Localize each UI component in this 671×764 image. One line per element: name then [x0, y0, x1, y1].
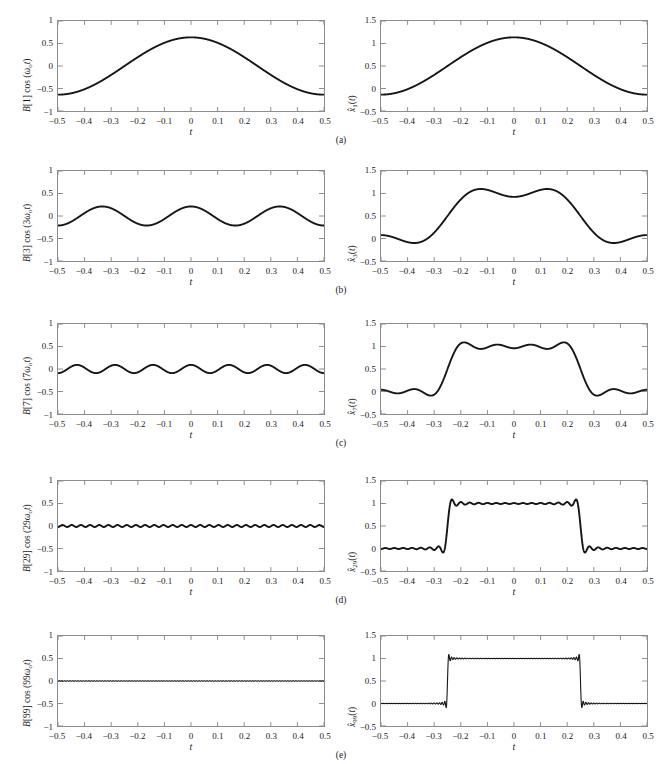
x-tick-label: 0.4: [283, 267, 313, 276]
x-tick-label: −0.1: [149, 577, 179, 586]
y-tick-label: 1: [27, 166, 53, 175]
plot-area-left: [57, 480, 325, 572]
x-axis-label-left: t: [171, 276, 211, 287]
x-tick-label: 0.2: [230, 732, 260, 741]
x-tick-label: −0.1: [472, 732, 502, 741]
plot-area-right: [380, 20, 648, 112]
y-tick-label: 1: [27, 631, 53, 640]
x-tick-label: 0.1: [203, 732, 233, 741]
x-tick-label: 0: [176, 267, 206, 276]
y-axis-label-left: B[99] cos (99ωot): [22, 659, 34, 727]
x-tick-label: 0.1: [203, 577, 233, 586]
x-axis-label-left: t: [171, 741, 211, 752]
x-tick-label: 0.5: [633, 117, 663, 126]
x-axis-label-right: t: [494, 586, 534, 597]
x-tick-label: 0.4: [283, 732, 313, 741]
y-tick-label: 0.5: [350, 677, 376, 686]
x-tick-label: 0.2: [230, 577, 260, 586]
harmonic-curve: [58, 525, 324, 527]
y-tick-label: 0: [350, 388, 376, 397]
x-tick-label: −0.2: [445, 732, 475, 741]
x-tick-label: −0.5: [365, 577, 395, 586]
x-tick-label: 0: [499, 577, 529, 586]
x-tick-label: 0.3: [579, 420, 609, 429]
x-axis-label-right: t: [494, 741, 534, 752]
y-axis-label-right: x̂7(t): [347, 398, 359, 415]
x-tick-label: −0.1: [149, 420, 179, 429]
x-tick-label: 0.4: [606, 577, 636, 586]
y-tick-label: 0: [350, 235, 376, 244]
plot-area-right: [380, 635, 648, 727]
x-tick-label: −0.3: [419, 732, 449, 741]
x-tick-label: 0.1: [203, 420, 233, 429]
x-tick-label: 0.2: [553, 732, 583, 741]
y-axis-label-left: B[7] cos (7ωot): [22, 357, 34, 415]
panel-row: −0.5−0.4−0.3−0.2−0.100.10.20.30.40.510.5…: [0, 617, 671, 764]
x-axis-label-right: t: [494, 276, 534, 287]
y-axis-label-right: x̂99(t): [347, 707, 359, 727]
x-tick-label: −0.1: [472, 420, 502, 429]
x-tick-label: 0.2: [230, 420, 260, 429]
x-tick-label: 0.2: [230, 267, 260, 276]
fourier-series-figure: −0.5−0.4−0.3−0.2−0.100.10.20.30.40.510.5…: [0, 0, 671, 764]
y-axis-label-right: x̂3(t): [347, 245, 359, 262]
y-axis-label-left: B[29] cos (29ωot): [22, 504, 34, 572]
x-tick-label: −0.4: [392, 267, 422, 276]
partial-sum-curve: [381, 37, 647, 94]
x-tick-label: −0.4: [392, 732, 422, 741]
x-tick-label: 0.3: [256, 732, 286, 741]
harmonic-curve: [58, 206, 324, 225]
x-tick-label: 0.1: [526, 577, 556, 586]
x-tick-label: −0.3: [419, 420, 449, 429]
y-axis-label-right: x̂29(t): [347, 552, 359, 572]
y-tick-label: 0.5: [350, 212, 376, 221]
x-tick-label: 0: [176, 732, 206, 741]
x-axis-label-right: t: [494, 126, 534, 137]
y-tick-label: 1: [350, 342, 376, 351]
axes-svg: [381, 636, 647, 726]
x-tick-label: −0.1: [472, 267, 502, 276]
y-axis-label-right: x̂1(t): [347, 95, 359, 112]
x-tick-label: −0.2: [122, 732, 152, 741]
x-tick-label: −0.4: [392, 117, 422, 126]
x-tick-label: 0.4: [606, 117, 636, 126]
x-tick-label: −0.2: [122, 117, 152, 126]
x-tick-label: 0.5: [310, 420, 340, 429]
x-tick-label: −0.3: [96, 732, 126, 741]
x-tick-label: −0.4: [392, 420, 422, 429]
x-tick-label: 0.4: [606, 420, 636, 429]
x-tick-label: 0.5: [310, 577, 340, 586]
x-tick-label: −0.3: [419, 577, 449, 586]
panel-row: −0.5−0.4−0.3−0.2−0.100.10.20.30.40.510.5…: [0, 305, 671, 457]
x-tick-label: −0.3: [96, 117, 126, 126]
x-tick-label: −0.5: [42, 577, 72, 586]
x-tick-label: 0.5: [633, 577, 663, 586]
x-tick-label: −0.3: [419, 267, 449, 276]
x-tick-label: −0.4: [69, 420, 99, 429]
x-tick-label: −0.2: [122, 267, 152, 276]
x-tick-label: 0.5: [310, 732, 340, 741]
subfigure-caption: (d): [311, 595, 371, 605]
x-tick-label: 0.5: [633, 420, 663, 429]
x-tick-label: −0.1: [472, 577, 502, 586]
x-tick-label: 0.1: [526, 732, 556, 741]
x-tick-label: −0.5: [365, 420, 395, 429]
x-tick-label: 0.1: [526, 420, 556, 429]
x-tick-label: 0.3: [579, 577, 609, 586]
x-tick-label: 0.3: [256, 420, 286, 429]
x-tick-label: −0.2: [445, 577, 475, 586]
x-tick-label: 0.3: [579, 117, 609, 126]
x-tick-label: 0: [176, 117, 206, 126]
y-tick-label: 0.5: [350, 522, 376, 531]
x-tick-label: 0.5: [633, 267, 663, 276]
x-tick-label: −0.5: [42, 117, 72, 126]
partial-sum-curve: [381, 654, 647, 707]
partial-sum-curve: [381, 499, 647, 552]
panel-row: −0.5−0.4−0.3−0.2−0.100.10.20.30.40.510.5…: [0, 152, 671, 304]
x-tick-label: 0.1: [203, 117, 233, 126]
y-tick-label: 1.5: [350, 476, 376, 485]
y-tick-label: 1: [350, 654, 376, 663]
y-tick-label: 1.5: [350, 16, 376, 25]
x-axis-label-right: t: [494, 429, 534, 440]
x-tick-label: −0.3: [96, 577, 126, 586]
